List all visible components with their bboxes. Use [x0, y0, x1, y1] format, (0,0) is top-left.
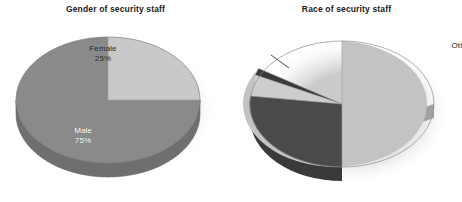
pie-slice-african-american [249, 96, 342, 167]
pie-chart-race [231, 0, 462, 202]
pie-label-male-name: Male [74, 126, 92, 135]
pie-label-male: Male 75% [52, 126, 114, 145]
pie-label-female: Female 25% [72, 44, 134, 63]
pie-label-other-races-name: Other races [452, 41, 462, 50]
figure-security-staff-demographics: Gender of security staff [0, 0, 462, 202]
pie-label-male-pct: 75% [52, 136, 114, 146]
pie-chart-gender [0, 0, 231, 202]
chart-panel-gender: Gender of security staff [0, 0, 231, 202]
chart-panel-race: Race of security staff [231, 0, 462, 202]
pie-label-female-name: Female [89, 44, 116, 53]
pie-label-female-pct: 25% [72, 54, 134, 64]
pie-label-other-races-pct: 2% [442, 51, 462, 61]
pie-label-other-races: Other races 2% [442, 41, 462, 60]
